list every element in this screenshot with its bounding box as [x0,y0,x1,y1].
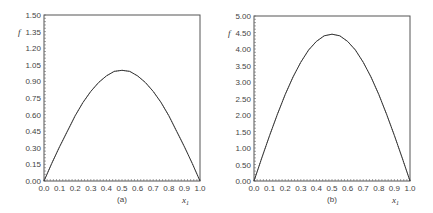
y-tick-label: 1.20 [25,44,41,53]
x-axis-label: x1 [181,195,189,206]
y-tick-label: 0.75 [25,94,41,103]
x-tick-label: 0.9 [389,184,401,193]
plot-frame [254,16,410,181]
data-points-dotted [44,70,200,181]
y-axis-label: f [18,27,22,37]
x-axis-label: x1 [391,195,399,206]
x-tick-label: 0.0 [38,184,50,193]
chart-caption: (a) [117,195,127,204]
figure: 0.000.150.300.450.600.750.901.051.201.35… [0,0,433,213]
y-axis-label: f [228,28,232,38]
y-tick-label: 2.00 [235,111,251,120]
y-tick-label: 0.90 [25,77,41,86]
x-tick-label: 0.5 [116,184,128,193]
x-tick-label: 0.5 [326,184,338,193]
y-tick-label: 0.60 [25,111,41,120]
y-tick-label: 4.00 [235,45,251,54]
chart-b: 0.000.501.001.502.002.503.003.504.004.50… [228,12,416,206]
x-tick-label: 0.2 [70,184,82,193]
x-tick-label: 0.6 [342,184,354,193]
x-tick-label: 0.8 [373,184,385,193]
x-tick-label: 0.3 [295,184,307,193]
plot-frame [44,15,200,181]
chart-a: 0.000.150.300.450.600.750.901.051.201.35… [18,11,206,206]
data-curve [254,34,410,181]
y-tick-label: 1.00 [235,144,251,153]
y-tick-label: 0.15 [25,160,41,169]
y-tick-label: 1.50 [25,11,41,20]
x-tick-label: 1.0 [194,184,206,193]
x-tick-label: 0.7 [148,184,160,193]
y-tick-label: 4.50 [235,29,251,38]
x-tick-label: 0.3 [85,184,97,193]
x-tick-label: 0.0 [248,184,260,193]
y-tick-label: 1.50 [235,128,251,137]
x-tick-label: 0.2 [280,184,292,193]
x-tick-label: 0.1 [54,184,66,193]
y-tick-label: 0.50 [235,161,251,170]
x-tick-label: 0.1 [264,184,276,193]
x-tick-label: 1.0 [404,184,416,193]
y-tick-label: 0.45 [25,127,41,136]
chart-caption: (b) [327,195,337,204]
y-tick-label: 1.35 [25,28,41,37]
x-tick-label: 0.4 [101,184,113,193]
x-tick-label: 0.6 [132,184,144,193]
data-points-dotted [254,34,410,181]
y-tick-label: 1.05 [25,61,41,70]
data-curve [44,70,200,181]
y-tick-label: 3.00 [235,78,251,87]
x-tick-label: 0.7 [358,184,370,193]
y-tick-label: 2.50 [235,95,251,104]
y-tick-label: 3.50 [235,62,251,71]
x-tick-label: 0.8 [163,184,175,193]
y-tick-label: 5.00 [235,12,251,21]
x-tick-label: 0.9 [179,184,191,193]
x-tick-label: 0.4 [311,184,323,193]
y-tick-label: 0.30 [25,144,41,153]
